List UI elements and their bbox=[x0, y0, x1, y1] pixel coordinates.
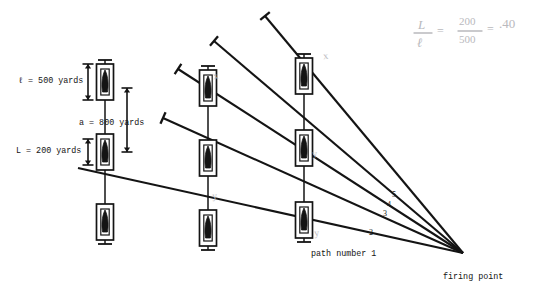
path-1 bbox=[78, 168, 463, 253]
path-number-4: 4 bbox=[387, 200, 391, 209]
firing-point-label: firing point bbox=[443, 272, 503, 282]
path-number-3: 3 bbox=[383, 209, 387, 218]
dimension-label-L: L = 200 yards bbox=[16, 146, 81, 156]
path-number-2: 2 bbox=[369, 228, 373, 237]
column-1-target-2 bbox=[97, 134, 114, 170]
dim-arrow-L bbox=[83, 139, 94, 165]
formula-result: .40 bbox=[499, 16, 515, 32]
path-3-terminator bbox=[175, 64, 182, 74]
pencil-mark-x-col3: x bbox=[322, 50, 328, 61]
column-3 bbox=[296, 54, 313, 242]
column-3-target-3 bbox=[296, 202, 313, 238]
path-number-one-label: path number 1 bbox=[311, 249, 376, 259]
dimension-label-a: a = 800 yards bbox=[79, 118, 144, 128]
pencil-mark-y-col3-bottom: y bbox=[313, 227, 319, 238]
path-4 bbox=[210, 36, 463, 253]
formula-equals-second: = bbox=[487, 22, 494, 37]
pencil-mark-y-col2: y bbox=[211, 190, 217, 201]
path-number-5: 5 bbox=[392, 190, 396, 199]
column-1-target-3 bbox=[97, 204, 114, 240]
column-2-target-3 bbox=[200, 210, 217, 246]
formula-denominator-500: 500 bbox=[459, 33, 476, 45]
column-3-target-1 bbox=[296, 58, 313, 94]
dim-arrow-ell bbox=[83, 64, 94, 100]
path-3 bbox=[175, 64, 463, 253]
flight-paths-group bbox=[78, 12, 463, 253]
path-4-line bbox=[214, 41, 463, 253]
formula-numerator-200: 200 bbox=[459, 15, 476, 27]
formula-numerator-L: L bbox=[418, 17, 425, 33]
path-5 bbox=[260, 12, 463, 253]
pencil-mark-x-col2: x bbox=[212, 70, 218, 81]
formula-equals-first: = bbox=[437, 24, 444, 39]
formula-denominator-ell: ℓ bbox=[417, 35, 422, 51]
path-1-line bbox=[78, 168, 463, 253]
pencil-mark-y-col3-mid: y bbox=[311, 148, 317, 159]
column-3-target-2 bbox=[296, 130, 313, 166]
column-1 bbox=[97, 60, 114, 244]
path-3-line bbox=[178, 69, 463, 253]
column-2-target-2 bbox=[200, 140, 217, 176]
column-2 bbox=[200, 66, 217, 250]
dimension-label-ell: ℓ = 500 yards bbox=[18, 76, 83, 86]
column-1-target-1 bbox=[97, 64, 114, 100]
